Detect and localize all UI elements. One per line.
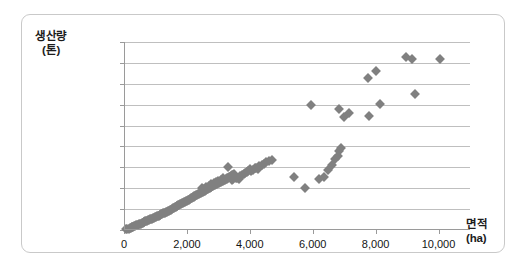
y-axis-title-main: 생산량 <box>18 30 84 44</box>
x-tick-label: 6,000 <box>278 238 348 250</box>
x-tick-mark <box>313 230 314 234</box>
plot-area: 0100,000200,000300,000400,000500,000600,… <box>124 42 470 230</box>
data-point <box>289 172 299 182</box>
gridline-horizontal <box>124 105 470 106</box>
x-tick-label: 0 <box>89 238 159 250</box>
x-axis-title-main: 면적 <box>466 218 514 232</box>
data-point <box>306 100 316 110</box>
data-point <box>371 66 381 76</box>
gridline-horizontal <box>124 167 470 168</box>
x-tick-mark <box>439 230 440 234</box>
x-tick-label: 4,000 <box>215 238 285 250</box>
scatter-chart: 생산량 (톤) 면적 (ha) 0100,000200,000300,00040… <box>0 0 527 271</box>
gridline-horizontal <box>124 63 470 64</box>
gridline-horizontal <box>124 84 470 85</box>
y-axis-title-unit: (톤) <box>18 44 84 58</box>
y-axis-line <box>124 42 125 230</box>
gridline-horizontal <box>124 188 470 189</box>
data-point <box>375 99 385 109</box>
x-tick-mark <box>187 230 188 234</box>
x-tick-mark <box>376 230 377 234</box>
gridline-horizontal <box>124 42 470 43</box>
x-tick-mark <box>250 230 251 234</box>
y-axis-title: 생산량 (톤) <box>18 30 84 57</box>
data-point <box>300 183 310 193</box>
data-point <box>364 111 374 121</box>
x-tick-label: 10,000 <box>404 238 474 250</box>
x-tick-label: 2,000 <box>152 238 222 250</box>
x-tick-label: 8,000 <box>341 238 411 250</box>
data-point <box>410 89 420 99</box>
gridline-horizontal <box>124 126 470 127</box>
data-point <box>363 73 373 83</box>
x-axis-line <box>124 229 470 230</box>
gridline-horizontal <box>124 146 470 147</box>
